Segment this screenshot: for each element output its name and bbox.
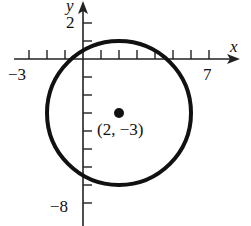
x-tick-label-max: 7 bbox=[203, 66, 212, 83]
center-point-label: (2, −3) bbox=[97, 121, 143, 138]
circle-graph: y 2 x −3 7 (2, −3) −8 bbox=[0, 0, 251, 226]
y-tick-label-min: −8 bbox=[50, 198, 68, 215]
x-ticks bbox=[29, 50, 209, 59]
center-point bbox=[114, 108, 124, 118]
x-tick-label-min: −3 bbox=[8, 66, 26, 83]
x-axis-label: x bbox=[230, 38, 238, 55]
y-axis-label: y bbox=[66, 0, 74, 14]
plot-canvas bbox=[0, 0, 251, 226]
y-tick-label-max: 2 bbox=[66, 14, 75, 31]
